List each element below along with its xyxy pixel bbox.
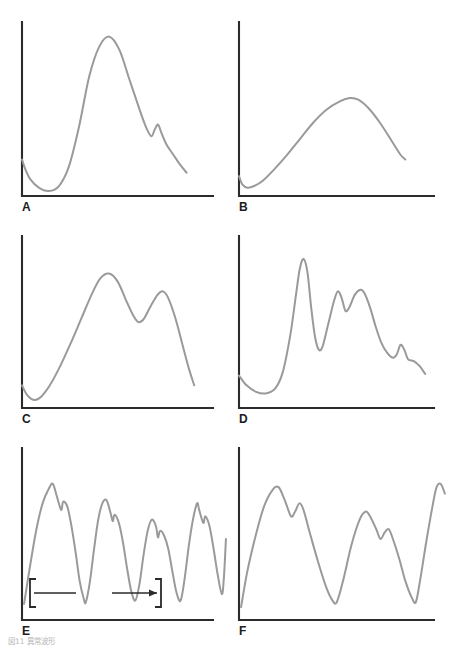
panel-d-axes [239, 236, 434, 408]
panel-e-label: E [22, 625, 30, 637]
panel-e-plot [0, 440, 229, 640]
panel-d-plot [229, 228, 459, 440]
panel-b: B [229, 0, 459, 228]
panel-e: 吸気 E [0, 440, 229, 640]
figure-container: A B C D [0, 0, 459, 649]
figure-caption: 図11 異常波形 [8, 638, 55, 646]
inspiration-annotation [30, 579, 161, 607]
panel-c-plot [0, 228, 229, 440]
panel-c-label: C [22, 413, 31, 425]
panel-d: D [229, 228, 459, 440]
panel-d-label: D [239, 413, 248, 425]
panel-f-waveform [241, 483, 445, 607]
panel-f-label: F [239, 625, 247, 637]
panel-b-label: B [239, 201, 248, 213]
panel-f: F [229, 440, 459, 640]
panel-c-waveform [22, 273, 194, 399]
panel-e-waveform [24, 484, 226, 604]
panel-a-plot [0, 0, 229, 228]
panel-d-waveform [239, 259, 425, 394]
panel-c: C [0, 228, 229, 440]
panel-a: A [0, 0, 229, 228]
panel-b-axes [239, 22, 434, 196]
panel-b-plot [229, 0, 459, 228]
panel-f-axes [239, 448, 434, 620]
arrow-head-icon [149, 590, 157, 597]
panel-e-axes [22, 448, 213, 620]
panel-a-waveform [22, 37, 187, 191]
panel-a-label: A [22, 201, 31, 213]
panel-b-waveform [239, 98, 405, 188]
panel-f-plot [229, 440, 459, 640]
